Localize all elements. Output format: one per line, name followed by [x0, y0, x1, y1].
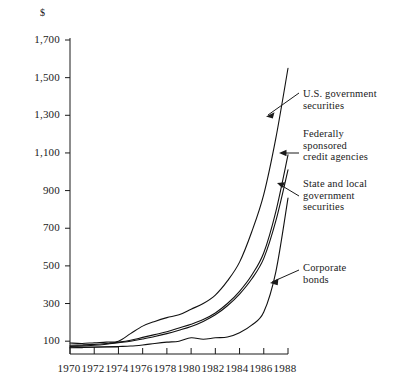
x-axis-ticks — [70, 347, 288, 354]
chart-container: $ 1,700 1,500 1,300 1,100 900 700 500 30… — [0, 0, 399, 390]
y-axis-ticks — [65, 40, 70, 341]
series-line-0 — [70, 68, 288, 343]
leader-arrow-federally-sponsored-credit-agencies — [279, 150, 299, 156]
leader-arrow-us-government-securities — [266, 93, 299, 118]
annotation-leader-lines — [266, 93, 299, 285]
chart-plot-area — [0, 0, 399, 390]
axis-lines — [70, 38, 288, 354]
series-line-1 — [70, 155, 288, 346]
series-line-2 — [70, 170, 288, 347]
series-paths — [70, 68, 288, 348]
